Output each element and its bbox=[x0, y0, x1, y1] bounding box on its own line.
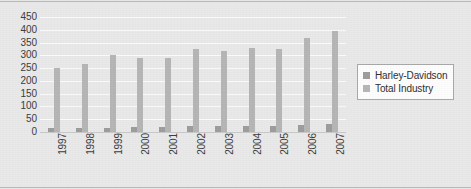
legend-item-label: Total Industry bbox=[375, 83, 433, 94]
y-tick-label: 250 bbox=[0, 63, 37, 73]
x-tick-label: 2001 bbox=[169, 133, 179, 185]
y-tick-label: 200 bbox=[0, 76, 37, 86]
x-tick-label: 1999 bbox=[114, 133, 124, 185]
bar-total-industry-2003[interactable] bbox=[221, 51, 227, 132]
x-tick-label: 2002 bbox=[197, 133, 207, 185]
bar-total-industry-2002[interactable] bbox=[193, 49, 199, 132]
x-tick-label: 2003 bbox=[225, 133, 235, 185]
x-tick-label: 1998 bbox=[86, 133, 96, 185]
chart-legend: Harley-Davidson Total Industry bbox=[357, 64, 454, 100]
bar-total-industry-2006[interactable] bbox=[304, 38, 310, 132]
legend-swatch-icon bbox=[363, 85, 370, 92]
x-axis: 1997199819992000200120022003200420052006… bbox=[40, 133, 346, 185]
x-tick-label: 2005 bbox=[280, 133, 290, 185]
y-tick-label: 400 bbox=[0, 25, 37, 35]
bar-group bbox=[40, 17, 68, 132]
legend-item-label: Harley-Davidson bbox=[375, 70, 447, 81]
bar-group bbox=[235, 17, 263, 132]
bar-total-industry-1998[interactable] bbox=[82, 64, 88, 132]
bar-group bbox=[96, 17, 124, 132]
x-tick-label: 2007 bbox=[336, 133, 346, 185]
bottom-divider-rule bbox=[0, 187, 471, 188]
bar-total-industry-1999[interactable] bbox=[110, 55, 116, 132]
bar-group bbox=[68, 17, 96, 132]
bar-group bbox=[151, 17, 179, 132]
y-tick-label: 50 bbox=[0, 114, 37, 124]
legend-item-harley-davidson[interactable]: Harley-Davidson bbox=[363, 69, 447, 82]
top-divider-rule bbox=[0, 1, 471, 2]
bar-group bbox=[207, 17, 235, 132]
bar-group bbox=[318, 17, 346, 132]
bar-group bbox=[179, 17, 207, 132]
y-tick-label: 300 bbox=[0, 50, 37, 60]
x-tick-label: 2004 bbox=[253, 133, 263, 185]
y-tick-label: 150 bbox=[0, 89, 37, 99]
bar-total-industry-2007[interactable] bbox=[332, 31, 338, 132]
x-tick-label: 1997 bbox=[58, 133, 68, 185]
x-tick-label: 2000 bbox=[141, 133, 151, 185]
y-tick-label: 100 bbox=[0, 101, 37, 111]
x-tick-label: 2006 bbox=[308, 133, 318, 185]
bar-group bbox=[123, 17, 151, 132]
bar-total-industry-2000[interactable] bbox=[137, 58, 143, 132]
y-tick-label: 350 bbox=[0, 38, 37, 48]
y-tick-label: 0 bbox=[0, 127, 37, 137]
chart-screenshot: 450400350300250200150100500 199719981999… bbox=[0, 0, 471, 189]
bar-total-industry-2001[interactable] bbox=[165, 58, 171, 132]
bar-total-industry-2005[interactable] bbox=[276, 49, 282, 132]
bar-total-industry-2004[interactable] bbox=[249, 48, 255, 132]
bar-group bbox=[263, 17, 291, 132]
bar-total-industry-1997[interactable] bbox=[54, 68, 60, 132]
legend-swatch-icon bbox=[363, 72, 370, 79]
bar-group bbox=[290, 17, 318, 132]
plot-area bbox=[40, 17, 346, 132]
y-axis: 450400350300250200150100500 bbox=[0, 17, 37, 132]
legend-item-total-industry[interactable]: Total Industry bbox=[363, 82, 447, 95]
y-tick-label: 450 bbox=[0, 12, 37, 22]
